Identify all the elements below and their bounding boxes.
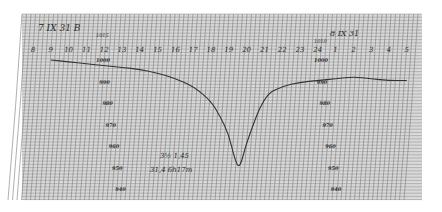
- hour-tick-label: 9: [49, 46, 54, 54]
- hour-tick-label: 12: [100, 46, 109, 54]
- scale-top-left-label: 1015: [96, 32, 109, 38]
- hour-tick-label: 4: [386, 46, 391, 54]
- pressure-scale-label: 940: [331, 186, 342, 192]
- hour-tick-label: 13: [118, 46, 127, 54]
- pressure-scale-label: 960: [325, 143, 336, 149]
- pressure-scale-label: 950: [328, 165, 339, 171]
- pressure-scale-label: 980: [320, 100, 331, 106]
- hour-tick-label: 16: [171, 46, 180, 54]
- annotation-line-1: 3½ 1,45: [160, 152, 190, 160]
- annotation-line-2: 31,4 6h17m: [150, 166, 193, 174]
- hour-tick-label: 22: [277, 46, 287, 54]
- pressure-scale-label: 970: [322, 122, 333, 128]
- pressure-scale-label: 960: [109, 143, 120, 149]
- hour-tick-label: 11: [82, 46, 91, 54]
- pressure-scale-label: 940: [115, 186, 126, 192]
- hour-tick-label: 3: [369, 46, 374, 54]
- hour-tick-label: 1: [333, 46, 337, 54]
- pressure-scale-label: 970: [106, 122, 117, 128]
- hour-tick-label: 14: [135, 46, 144, 54]
- hour-tick-label: 2: [350, 46, 356, 54]
- pressure-scale-label: 990: [99, 79, 110, 85]
- hour-tick-label: 17: [189, 46, 198, 54]
- hour-tick-label: 10: [64, 46, 73, 54]
- scale-top-right-label: 1010: [314, 38, 328, 44]
- hour-tick-label: 23: [295, 46, 305, 54]
- hour-tick-label: 5: [405, 46, 410, 54]
- hour-tick-label: 20: [241, 46, 251, 54]
- date-label-left: 7 IX 31 B: [38, 23, 81, 33]
- hour-tick-label: 15: [153, 46, 162, 54]
- pressure-scale-label: 1000: [96, 57, 110, 63]
- hour-tick-label: 19: [224, 46, 233, 54]
- barograph-chart: 1000990980970960950940100099098097096095…: [0, 0, 442, 212]
- pressure-scale-label: 1000: [314, 57, 328, 63]
- hour-tick-label: 24: [312, 46, 322, 54]
- date-label-right: 8 IX 31: [330, 29, 359, 38]
- pressure-scale-label: 950: [112, 165, 123, 171]
- hour-tick-label: 18: [207, 46, 216, 54]
- pressure-scale-label: 980: [102, 100, 113, 106]
- hour-tick-label: 21: [259, 46, 269, 54]
- hour-tick-label: 8: [31, 46, 36, 54]
